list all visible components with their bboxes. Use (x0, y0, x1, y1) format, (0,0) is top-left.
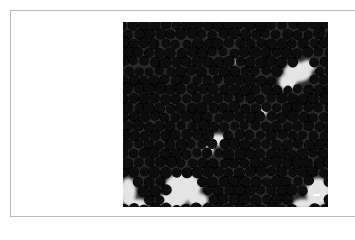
particle-field (123, 22, 328, 207)
micrograph-image: Micrograph of densely packed dark spheri… (123, 22, 328, 207)
scale-bar (313, 194, 320, 196)
